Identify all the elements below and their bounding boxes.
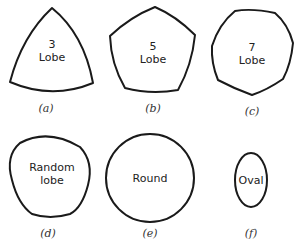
panel-oval: Oval (f)	[235, 153, 267, 240]
panel-random-lobe: Random lobe (d)	[10, 136, 90, 240]
round-label: Round	[133, 172, 168, 185]
random-lobe-word1: Random	[29, 161, 75, 174]
panel-5-lobe: 5 Lobe (b)	[110, 7, 195, 115]
caption-c: (c)	[245, 105, 260, 118]
panel-3-lobe: 3 Lobe (a)	[10, 8, 93, 115]
seven-lobe-number: 7	[249, 41, 256, 54]
random-lobe-word2: lobe	[40, 174, 64, 187]
caption-b: (b)	[145, 102, 161, 115]
caption-e: (e)	[142, 227, 157, 240]
caption-a: (a)	[38, 102, 53, 115]
five-lobe-label: Lobe	[140, 53, 167, 66]
panel-7-lobe: 7 Lobe (c)	[212, 10, 293, 118]
caption-d: (d)	[40, 227, 56, 240]
caption-f: (f)	[245, 227, 258, 240]
three-lobe-number: 3	[49, 38, 56, 51]
seven-lobe-label: Lobe	[239, 54, 266, 67]
three-lobe-label: Lobe	[39, 51, 66, 64]
panel-round: Round (e)	[106, 134, 194, 240]
lobe-shapes-diagram: 3 Lobe (a) 5 Lobe (b) 7 Lobe (c) Random …	[0, 0, 298, 243]
oval-label: Oval	[239, 174, 264, 187]
five-lobe-number: 5	[150, 40, 157, 53]
